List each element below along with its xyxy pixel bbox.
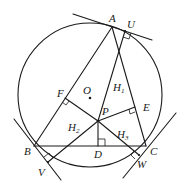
label-p: P bbox=[101, 105, 109, 117]
geometry-diagram: A U O F P E B C D V W H1 H2 H3 bbox=[0, 0, 187, 191]
label-d: D bbox=[93, 148, 102, 160]
label-h3: H3 bbox=[116, 128, 129, 142]
point-o bbox=[89, 97, 92, 100]
label-h2: H2 bbox=[67, 121, 80, 135]
label-b: B bbox=[24, 145, 31, 157]
right-angle-e bbox=[129, 109, 135, 114]
segment-pf bbox=[65, 98, 98, 121]
label-e: E bbox=[142, 101, 150, 113]
point-v bbox=[47, 161, 49, 163]
label-w: W bbox=[137, 158, 147, 170]
label-u: U bbox=[127, 18, 136, 30]
label-f: F bbox=[56, 87, 64, 99]
label-v: V bbox=[38, 166, 46, 178]
label-h1: H1 bbox=[112, 81, 124, 95]
point-u bbox=[124, 30, 126, 32]
label-a: A bbox=[108, 12, 116, 24]
label-o: O bbox=[83, 84, 91, 96]
right-angle-d bbox=[98, 139, 105, 146]
point-p bbox=[97, 120, 100, 123]
label-c: C bbox=[150, 145, 158, 157]
point-w bbox=[138, 154, 140, 156]
